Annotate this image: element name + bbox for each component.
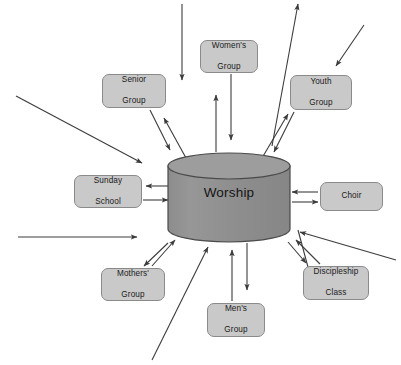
node-label-line2: Group [115, 290, 151, 301]
node-sunday-school[interactable]: Sunday School [74, 175, 142, 208]
node-label-line2: Group [120, 96, 148, 107]
node-label-line1: Mothers' [115, 269, 151, 280]
node-label-line1: Youth [307, 77, 334, 88]
arrow-center-to-mothers-group [144, 243, 168, 266]
node-label-line2: Group [222, 325, 249, 336]
node-senior-group[interactable]: Senior Group [102, 74, 166, 108]
node-label-line2: Group [307, 98, 334, 109]
external-arrow-right-inbound [300, 232, 396, 260]
node-discipleship-class[interactable]: Discipleship Class [303, 266, 369, 300]
cylinder-top-ellipse [168, 153, 290, 179]
external-arrow-top-right-inbound [336, 25, 364, 66]
node-label-line1: Women's [210, 41, 248, 52]
node-label-line1: Choir [339, 191, 363, 202]
node-womens-group[interactable]: Women's Group [200, 40, 258, 73]
node-choir[interactable]: Choir [320, 182, 383, 211]
node-label-line1: Senior [120, 75, 148, 86]
node-label-line2: Class [312, 288, 361, 299]
arrow-senior-group-to-center [150, 110, 170, 150]
arrow-center-to-discipleship [288, 242, 306, 263]
node-label-line1: Discipleship [312, 267, 361, 278]
diagram-canvas: Worship Women's Group Senior Group Youth… [0, 0, 401, 365]
arrow-center-to-senior-group [164, 118, 186, 158]
external-arrow-bottom-left-inbound [152, 247, 208, 360]
node-label-line2: School [92, 197, 124, 208]
node-label-line2: Group [210, 62, 248, 73]
arrow-center-to-youth-group [262, 114, 288, 158]
arrow-discipleship-to-center [296, 240, 320, 264]
node-label-line1: Sunday [92, 176, 124, 187]
center-cylinder [168, 153, 290, 242]
node-youth-group[interactable]: Youth Group [290, 75, 352, 110]
node-label-line1: Men's [222, 304, 249, 315]
node-mothers-group[interactable]: Mothers' Group [101, 268, 165, 301]
arrow-mothers-group-to-center [152, 240, 175, 266]
node-mens-group[interactable]: Men's Group [207, 303, 265, 337]
